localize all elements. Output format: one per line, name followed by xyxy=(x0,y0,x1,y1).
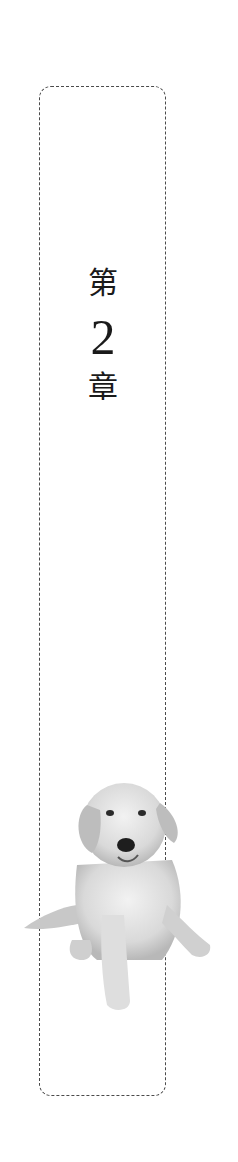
chapter-number: 2 xyxy=(91,309,116,365)
chapter-heading: 第 2 章 xyxy=(0,265,206,405)
puppy-illustration-icon xyxy=(22,765,218,1015)
chapter-suffix: 章 xyxy=(88,369,118,405)
chapter-prefix: 第 xyxy=(88,265,118,301)
